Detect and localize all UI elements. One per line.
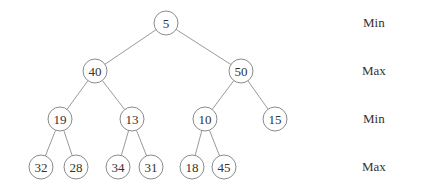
node-value: 28 <box>70 160 83 175</box>
node-value: 50 <box>235 64 248 79</box>
node-value: 15 <box>269 112 282 127</box>
edge-n50-n10 <box>212 81 234 110</box>
edge-n50-n15 <box>248 81 268 109</box>
node-value: 40 <box>89 64 102 79</box>
edge-n5-n40 <box>105 30 156 65</box>
node-value: 31 <box>145 160 158 175</box>
edge-n5-n50 <box>176 29 231 64</box>
tree-node-28: 28 <box>64 155 88 179</box>
node-value: 45 <box>218 160 231 175</box>
tree-nodes: 5405019131015322834311845 <box>29 11 287 179</box>
edge-n19-n28 <box>64 130 72 155</box>
tree-node-31: 31 <box>139 155 163 179</box>
tree-node-5: 5 <box>154 11 178 35</box>
level-label-2: Min <box>363 111 385 127</box>
tree-node-32: 32 <box>29 155 53 179</box>
node-value: 32 <box>35 160 48 175</box>
edge-n13-n31 <box>136 130 146 156</box>
edge-n40-n19 <box>67 81 88 110</box>
node-value: 18 <box>186 160 199 175</box>
node-value: 5 <box>163 16 170 31</box>
edge-n40-n13 <box>102 81 124 110</box>
node-value: 10 <box>199 112 212 127</box>
tree-node-18: 18 <box>180 155 204 179</box>
edge-n13-n34 <box>121 131 128 156</box>
tree-node-10: 10 <box>193 107 217 131</box>
edge-n10-n45 <box>209 130 219 156</box>
tree-edges <box>45 29 268 155</box>
tree-node-45: 45 <box>212 155 236 179</box>
edge-n10-n18 <box>195 131 202 156</box>
level-label-1: Max <box>362 63 386 79</box>
node-value: 13 <box>126 112 139 127</box>
node-value: 34 <box>112 160 126 175</box>
edge-n19-n32 <box>45 130 55 156</box>
tree-node-13: 13 <box>120 107 144 131</box>
tree-node-40: 40 <box>83 59 107 83</box>
tree-node-19: 19 <box>48 107 72 131</box>
node-value: 19 <box>54 112 67 127</box>
tree-node-15: 15 <box>263 107 287 131</box>
tree-node-34: 34 <box>106 155 130 179</box>
tree-node-50: 50 <box>229 59 253 83</box>
level-label-3: Max <box>362 159 386 175</box>
level-label-0: Min <box>363 15 385 31</box>
